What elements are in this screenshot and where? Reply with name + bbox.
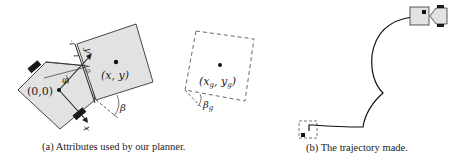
caption-b: (b) The trajectory made. <box>306 142 408 153</box>
phi-label: φ <box>62 75 69 85</box>
end-marker-icon <box>422 10 426 14</box>
caption-a: (a) Attributes used by our planner. <box>42 141 185 152</box>
x-axis-label: x <box>82 126 92 131</box>
origin-label: (0,0) <box>27 85 53 98</box>
trajectory-path <box>309 17 412 131</box>
x-arrowhead-icon <box>82 117 88 123</box>
tick-neg1-label: -1 <box>69 40 76 46</box>
end-robot-body <box>430 8 447 24</box>
subfigure-b-diagram <box>299 5 447 138</box>
position-label: (x, y) <box>101 69 129 82</box>
tick-0-label: 0 <box>85 69 92 73</box>
beta-arc <box>114 95 119 116</box>
goal-label: (xg, yg) <box>199 75 236 89</box>
end-trailer-box <box>410 7 429 25</box>
beta-g-label: βg <box>202 99 214 112</box>
start-marker-icon <box>301 133 305 137</box>
goal-dot <box>218 63 222 67</box>
beta-label: β <box>119 102 126 113</box>
end-wheel-bottom-icon <box>437 24 444 27</box>
tick-1-label: 1 <box>73 54 80 58</box>
beta-g-dashed-line <box>185 90 202 108</box>
origin-dot <box>57 88 61 92</box>
position-dot <box>114 60 118 64</box>
end-wheel-top-icon <box>437 5 444 8</box>
beta-g-arc <box>198 94 201 106</box>
subfigure-a-diagram: (0,0) (x, y) φ β y x -1 0 1 (xg, yg) βg <box>18 24 254 131</box>
y-axis-label: y <box>83 47 93 54</box>
